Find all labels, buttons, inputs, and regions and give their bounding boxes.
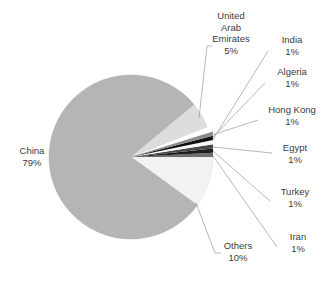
pie-label-algeria-pct: 1% — [268, 78, 316, 90]
pie-chart-figure: China 79% United Arab Emirates 5% India … — [0, 0, 331, 281]
pie-label-turkey: Turkey 1% — [272, 186, 318, 209]
pie-label-hong-kong-name: Hong Kong — [259, 104, 325, 116]
pie-label-uae-name-line3: Emirates — [205, 33, 257, 45]
pie-label-uae-pct: 5% — [205, 45, 257, 57]
pie-label-iran-pct: 1% — [281, 243, 315, 255]
leader-line-iran — [213, 156, 277, 247]
leader-line-united-arab-emirates — [199, 46, 212, 118]
pie-label-algeria: Algeria 1% — [268, 66, 316, 89]
pie-label-algeria-name: Algeria — [268, 66, 316, 78]
pie-label-india: India 1% — [272, 34, 312, 57]
pie-label-uae-name-line2: Arab — [205, 22, 257, 34]
pie-label-hong-kong: Hong Kong 1% — [259, 104, 325, 127]
pie-label-united-arab-emirates: United Arab Emirates 5% — [205, 10, 257, 56]
pie-label-hong-kong-pct: 1% — [259, 116, 325, 128]
pie-label-china-pct: 79% — [9, 157, 55, 169]
pie-label-others: Others 10% — [215, 240, 261, 263]
pie-label-india-name: India — [272, 34, 312, 46]
pie-label-others-pct: 10% — [215, 252, 261, 264]
pie-label-china-name: China — [9, 145, 55, 157]
pie-slices — [49, 75, 213, 239]
leader-line-hong-kong — [212, 120, 258, 135]
pie-label-iran: Iran 1% — [281, 231, 315, 254]
leader-line-algeria — [212, 83, 265, 138]
leader-line-india — [212, 51, 268, 141]
pie-label-turkey-pct: 1% — [272, 198, 318, 210]
pie-label-egypt-pct: 1% — [274, 154, 316, 166]
pie-label-india-pct: 1% — [272, 46, 312, 58]
pie-label-others-name: Others — [215, 240, 261, 252]
leader-line-turkey — [213, 151, 270, 201]
pie-label-egypt-name: Egypt — [274, 142, 316, 154]
pie-label-china: China 79% — [9, 145, 55, 168]
pie-label-uae-name-line1: United — [205, 10, 257, 22]
pie-label-turkey-name: Turkey — [272, 186, 318, 198]
leader-line-egypt — [213, 147, 272, 153]
pie-label-egypt: Egypt 1% — [274, 142, 316, 165]
pie-label-iran-name: Iran — [281, 231, 315, 243]
